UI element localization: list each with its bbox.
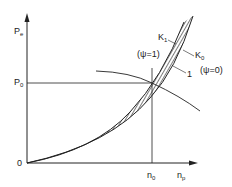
k0-leader bbox=[183, 50, 194, 56]
k-band bbox=[27, 16, 193, 163]
y-axis bbox=[25, 13, 30, 163]
x-axis bbox=[27, 161, 198, 166]
k1-label: K1 bbox=[158, 33, 167, 43]
power-speed-diagram: Pe P0 0 n0 np K1 K0 (ψ=1) 1 (ψ=0) bbox=[0, 0, 232, 187]
k0-label: K0 bbox=[195, 51, 204, 61]
curve1-leader bbox=[173, 66, 186, 73]
n0-label: n0 bbox=[147, 171, 155, 181]
k1-curve bbox=[27, 22, 184, 163]
curve1-label: 1 bbox=[187, 70, 192, 79]
k0-curve bbox=[27, 16, 193, 163]
y-axis-arrow-icon bbox=[25, 13, 30, 22]
psi1-label: (ψ=1) bbox=[137, 50, 160, 59]
p0-label: P0 bbox=[14, 78, 23, 88]
k1-leader bbox=[168, 40, 176, 44]
diagram-canvas bbox=[0, 0, 232, 187]
y-axis-label: Pe bbox=[14, 27, 23, 37]
psi0-label: (ψ=0) bbox=[200, 66, 223, 75]
x-axis-label: np bbox=[177, 171, 185, 181]
x-axis-arrow-icon bbox=[189, 161, 198, 166]
origin-label: 0 bbox=[17, 159, 22, 168]
